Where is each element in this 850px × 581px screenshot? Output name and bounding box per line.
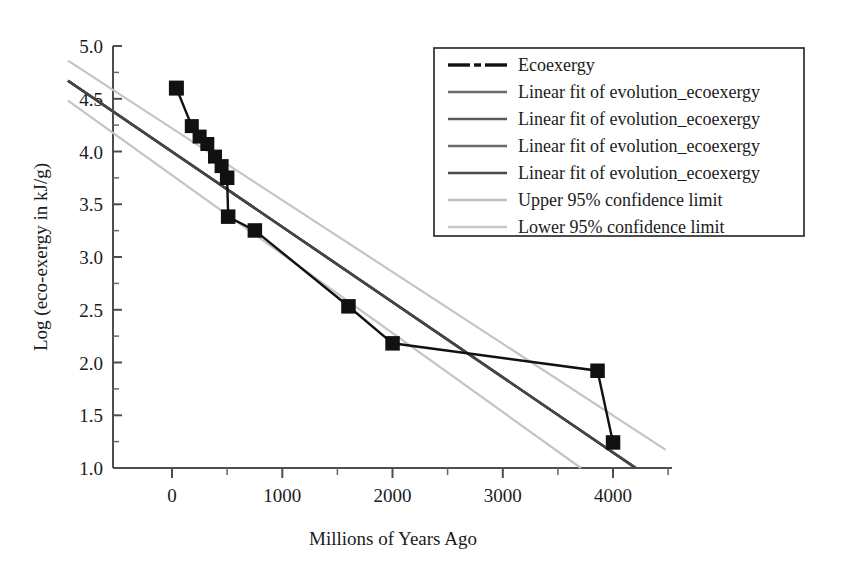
x-axis-title: Millions of Years Ago xyxy=(309,528,477,549)
x-tick-label-3000: 3000 xyxy=(484,485,522,506)
y-tick-label-4.0: 4.0 xyxy=(79,142,103,163)
legend: Ecoexergy Linear fit of evolution_ecoexe… xyxy=(434,48,804,237)
y-tick-label-2.0: 2.0 xyxy=(79,353,103,374)
legend-label: Lower 95% confidence limit xyxy=(518,217,724,237)
data-point-marker xyxy=(248,223,263,238)
legend-label: Linear fit of evolution_ecoexergy xyxy=(518,82,760,102)
data-point-marker xyxy=(385,336,400,351)
chart-page: 5.0 4.5 4.0 3.5 3.0 2.5 2.0 1.5 1.0 0 10… xyxy=(0,0,850,581)
y-tick-label-3.0: 3.0 xyxy=(79,247,103,268)
y-tick-label-5.0: 5.0 xyxy=(79,36,103,57)
legend-label: Linear fit of evolution_ecoexergy xyxy=(518,163,760,183)
data-point-marker xyxy=(169,81,184,96)
data-point-marker xyxy=(200,137,214,151)
legend-label: Linear fit of evolution_ecoexergy xyxy=(518,136,760,156)
y-tick-label-3.5: 3.5 xyxy=(79,194,103,215)
x-tick-label-4000: 4000 xyxy=(594,485,632,506)
y-axis-major-ticks xyxy=(113,46,122,468)
y-axis-title: Log (eco-exergy in kJ/g) xyxy=(30,163,52,351)
legend-label: Linear fit of evolution_ecoexergy xyxy=(518,109,760,129)
data-point-marker xyxy=(220,171,235,186)
x-tick-label-2000: 2000 xyxy=(374,485,412,506)
data-point-marker xyxy=(341,299,356,314)
x-tick-label-0: 0 xyxy=(167,485,177,506)
y-tick-label-2.5: 2.5 xyxy=(79,300,103,321)
x-axis-major-ticks xyxy=(172,468,613,478)
data-point-marker xyxy=(606,435,621,450)
y-tick-label-1.0: 1.0 xyxy=(79,458,103,479)
x-axis-minor-ticks xyxy=(227,468,668,475)
y-tick-label-1.5: 1.5 xyxy=(79,405,103,426)
data-point-marker xyxy=(590,364,605,379)
x-tick-label-1000: 1000 xyxy=(263,485,301,506)
chart-canvas: 5.0 4.5 4.0 3.5 3.0 2.5 2.0 1.5 1.0 0 10… xyxy=(0,0,850,581)
legend-label: Ecoexergy xyxy=(518,55,595,75)
data-point-marker xyxy=(221,209,236,224)
legend-label: Upper 95% confidence limit xyxy=(518,190,722,210)
